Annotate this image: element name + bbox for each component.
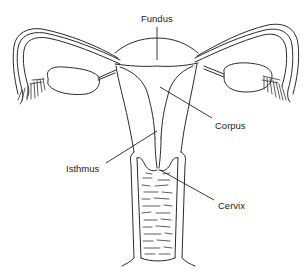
right-ovary bbox=[204, 63, 272, 92]
left-fallopian-tube bbox=[13, 29, 120, 104]
label-corpus: Corpus bbox=[215, 121, 246, 131]
left-ovary bbox=[47, 67, 116, 95]
vaginal-hatching bbox=[142, 173, 172, 254]
corpus-leader-line bbox=[160, 87, 212, 118]
uterus-body bbox=[115, 38, 198, 168]
label-fundus: Fundus bbox=[141, 14, 173, 24]
label-cervix: Cervix bbox=[218, 201, 245, 211]
label-isthmus: Isthmus bbox=[66, 164, 99, 174]
uterus-diagram bbox=[0, 0, 307, 280]
cervix-vagina bbox=[122, 152, 195, 266]
